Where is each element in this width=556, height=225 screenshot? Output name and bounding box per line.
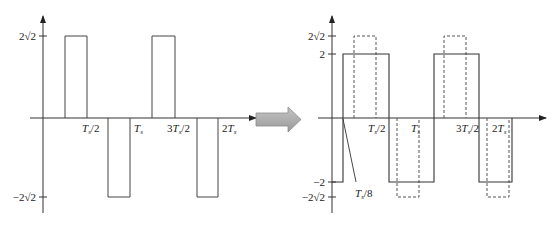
right-ylabel-2: 2: [320, 48, 326, 60]
left-pulse-4: [197, 118, 218, 197]
transform-arrow-icon: [256, 107, 301, 132]
ts8-leader-line: [343, 119, 356, 182]
diagram-canvas: 2√2 −2√2 Ts/2 Ts 3Ts/2 2Ts: [0, 0, 556, 225]
left-pulse-1: [65, 36, 87, 118]
left-ylabel-neg: −2√2: [13, 191, 36, 203]
left-xlabel-three-half: 3Ts/2: [167, 122, 190, 136]
right-plot: 2√2 2 −2 −2√2 Ts/8 Ts/2 Ts: [302, 16, 546, 213]
dashed-reference-pulses: [354, 36, 509, 197]
right-ylabel-neg2: −2: [313, 176, 325, 188]
right-ylabel-2sqrt2: 2√2: [308, 30, 325, 42]
right-ylabel-neg2sqrt2: −2√2: [302, 191, 325, 203]
left-plot: 2√2 −2√2 Ts/2 Ts 3Ts/2 2Ts: [13, 16, 256, 213]
right-xlabel-three-half: 3Ts/2: [456, 122, 479, 136]
left-pulse-2: [108, 118, 130, 197]
left-xlabel-one: Ts: [134, 122, 143, 136]
ts8-annotation: Ts/8: [355, 187, 373, 201]
right-xlabel-one: Ts: [411, 122, 420, 136]
left-xlabel-half: Ts/2: [82, 122, 99, 136]
left-xlabel-two: 2Ts: [222, 122, 237, 136]
left-ylabel-pos: 2√2: [19, 30, 36, 42]
right-xlabel-two: 2Ts: [492, 122, 507, 136]
left-pulse-3: [152, 36, 175, 118]
right-xlabel-half: Ts/2: [368, 122, 385, 136]
